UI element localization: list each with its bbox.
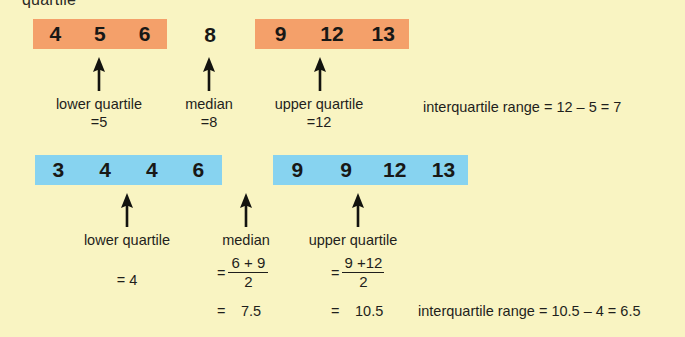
clipped-heading: quartile <box>22 0 76 9</box>
even-lower-value-1: 4 <box>82 159 129 182</box>
odd-lower-quartile-value-label: =5 <box>44 114 154 131</box>
odd-upper-value-0: 9 <box>255 23 306 46</box>
even-median-fraction-equals: = <box>217 265 225 281</box>
even-interquartile-range-text: interquartile range = 10.5 – 4 = 6.5 <box>418 303 641 320</box>
even-upper-value-0: 9 <box>273 159 322 182</box>
even-lower-value-3: 6 <box>175 159 222 182</box>
odd-lower-value-0: 4 <box>33 23 78 46</box>
even-lower-quartile-value-label: = 4 <box>72 272 182 289</box>
even-lower-value-0: 3 <box>35 159 82 182</box>
even-upper-value-2: 12 <box>370 159 419 182</box>
even-lower-quartile-label: lower quartile <box>72 232 182 249</box>
odd-median-label: median <box>167 96 251 113</box>
diagram-canvas: quartile 4 5 6 8 9 12 13 lower quartile … <box>0 0 685 337</box>
even-median-result-equals: = <box>217 303 225 320</box>
odd-upper-half-box: 9 12 13 <box>255 19 409 49</box>
even-median-arrow-icon <box>239 193 253 227</box>
even-median-fraction-numerator: 6 + 9 <box>230 255 268 272</box>
odd-upper-quartile-arrow-icon <box>313 57 327 91</box>
odd-lower-value-2: 6 <box>122 23 167 46</box>
odd-upper-value-2: 13 <box>358 23 409 46</box>
odd-lower-half-box: 4 5 6 <box>33 19 167 49</box>
even-median-fraction-body: 6 + 9 2 <box>228 255 268 290</box>
even-upper-quartile-fraction-equals: = <box>331 265 339 281</box>
even-upper-quartile-result: 10.5 <box>355 303 383 320</box>
even-median-label: median <box>204 232 288 249</box>
even-upper-value-3: 13 <box>419 159 468 182</box>
odd-median-arrow-icon <box>202 57 216 91</box>
odd-interquartile-range-text: interquartile range = 12 – 5 = 7 <box>423 99 621 116</box>
even-upper-quartile-result-equals: = <box>331 303 339 320</box>
even-lower-half-box: 3 4 4 6 <box>35 155 222 185</box>
even-median-result: 7.5 <box>241 303 261 320</box>
odd-upper-quartile-value-label: =12 <box>263 114 375 131</box>
odd-upper-quartile-label: upper quartile <box>263 96 375 113</box>
odd-lower-value-1: 5 <box>78 23 123 46</box>
even-upper-quartile-fraction-denominator: 2 <box>359 273 367 290</box>
even-upper-half-box: 9 9 12 13 <box>273 155 468 185</box>
even-upper-quartile-fraction-body: 9 +12 2 <box>342 255 384 290</box>
even-upper-quartile-label: upper quartile <box>297 232 409 249</box>
odd-median-value-label: =8 <box>167 114 251 131</box>
odd-lower-quartile-label: lower quartile <box>44 96 154 113</box>
even-upper-quartile-fraction-numerator: 9 +12 <box>342 255 384 272</box>
even-lower-value-2: 4 <box>128 159 175 182</box>
even-lower-quartile-arrow-icon <box>120 193 134 227</box>
even-upper-quartile-fraction: = 9 +12 2 <box>331 255 384 290</box>
odd-upper-value-1: 12 <box>306 23 357 46</box>
even-upper-quartile-arrow-icon <box>351 193 365 227</box>
even-median-fraction: = 6 + 9 2 <box>217 255 268 290</box>
even-upper-value-1: 9 <box>322 159 371 182</box>
even-median-fraction-denominator: 2 <box>244 273 252 290</box>
odd-lower-quartile-arrow-icon <box>92 57 106 91</box>
odd-median-value: 8 <box>202 24 218 45</box>
